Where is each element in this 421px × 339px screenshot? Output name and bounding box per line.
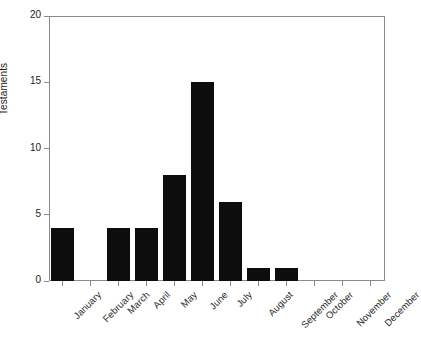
- bar: [163, 175, 186, 281]
- bar: [219, 202, 242, 282]
- x-tick-mark: [202, 281, 203, 286]
- x-tick-label: July: [234, 289, 254, 309]
- bar-slot: [106, 16, 134, 281]
- y-axis-label: Testaments: [0, 0, 9, 115]
- y-tick-mark: [44, 82, 49, 83]
- x-tick-mark: [174, 281, 175, 286]
- x-tick-mark: [370, 281, 371, 286]
- y-tick-label: 5: [35, 208, 41, 219]
- y-tick-label: 15: [30, 75, 41, 86]
- x-tick-label: June: [207, 289, 230, 312]
- x-tick-mark: [286, 281, 287, 286]
- x-tick-mark: [258, 281, 259, 286]
- y-tick-mark: [44, 16, 49, 17]
- bar-slot: [134, 16, 162, 281]
- bar-slot: [162, 16, 190, 281]
- bar: [191, 82, 214, 281]
- y-tick-label: 0: [35, 274, 41, 285]
- x-tick-mark: [342, 281, 343, 286]
- bar: [107, 228, 130, 281]
- bar-slot: [358, 16, 386, 281]
- bar-slot: [330, 16, 358, 281]
- bar-slot: [274, 16, 302, 281]
- x-tick-mark: [146, 281, 147, 286]
- x-tick-mark: [62, 281, 63, 286]
- y-tick-mark: [44, 214, 49, 215]
- bar-slot: [302, 16, 330, 281]
- x-tick-label: May: [178, 289, 199, 310]
- bar-series: [50, 16, 385, 281]
- bar-slot: [78, 16, 106, 281]
- bar: [135, 228, 158, 281]
- bar-slot: [218, 16, 246, 281]
- x-tick-mark: [118, 281, 119, 286]
- bar: [275, 268, 298, 281]
- x-tick-label: April: [151, 289, 173, 311]
- y-tick-label: 10: [30, 142, 41, 153]
- x-tick-label: August: [266, 289, 295, 318]
- bar-slot: [50, 16, 78, 281]
- bar-slot: [246, 16, 274, 281]
- x-tick-mark: [314, 281, 315, 286]
- bar: [51, 228, 74, 281]
- x-tick-mark: [230, 281, 231, 286]
- bar: [247, 268, 270, 281]
- y-tick-label: 20: [30, 9, 41, 20]
- y-tick-mark: [44, 281, 49, 282]
- x-tick-label: January: [71, 289, 103, 321]
- x-tick-mark: [90, 281, 91, 286]
- y-tick-mark: [44, 148, 49, 149]
- bar-slot: [190, 16, 218, 281]
